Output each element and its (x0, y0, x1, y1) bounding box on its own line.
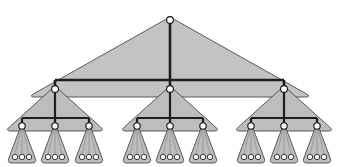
node-circle (93, 154, 98, 159)
leaf-node (141, 154, 146, 159)
node-circle (174, 154, 179, 159)
recursive-tree-figure: Recursive ternary tree diagram A four-le… (0, 0, 340, 167)
node-circle (248, 154, 253, 159)
leaf-node (160, 154, 165, 159)
node-circle (314, 123, 320, 129)
node-circle (321, 154, 326, 159)
node-circle (134, 123, 140, 129)
node-circle (167, 123, 173, 129)
internal-node (281, 123, 287, 129)
leaf-node (200, 154, 205, 159)
node-circle (160, 154, 165, 159)
node-circle (52, 154, 57, 159)
node-circle (12, 154, 17, 159)
node-circle (255, 154, 260, 159)
node-circle (86, 154, 91, 159)
node-circle (281, 86, 288, 93)
node-circle (314, 154, 319, 159)
leaf-node (248, 154, 253, 159)
node-circle (19, 154, 24, 159)
node-circle (274, 154, 279, 159)
root-node (167, 17, 174, 24)
node-circle (127, 154, 132, 159)
node-circle (281, 154, 286, 159)
node-circle (167, 17, 174, 24)
internal-node (167, 123, 173, 129)
leaf-node (255, 154, 260, 159)
node-circle (86, 123, 92, 129)
internal-node (167, 86, 174, 93)
node-circle (248, 123, 254, 129)
node-circle (281, 123, 287, 129)
leaf-node (281, 154, 286, 159)
node-circle (59, 154, 64, 159)
leaf-node (127, 154, 132, 159)
leaf-node (19, 154, 24, 159)
node-circle (200, 154, 205, 159)
node-circle (19, 123, 25, 129)
leaf-node (59, 154, 64, 159)
node-circle (167, 154, 172, 159)
internal-node (52, 123, 58, 129)
node-circle (241, 154, 246, 159)
leaf-node (52, 154, 57, 159)
node-circle (134, 154, 139, 159)
leaf-node (79, 154, 84, 159)
node-circle (26, 154, 31, 159)
node-circle (141, 154, 146, 159)
internal-node (248, 123, 254, 129)
tree-diagram-canvas: Recursive ternary tree diagram A four-le… (0, 0, 340, 167)
leaf-node (314, 154, 319, 159)
node-circle (79, 154, 84, 159)
leaf-node (307, 154, 312, 159)
node-circle (307, 154, 312, 159)
leaf-node (26, 154, 31, 159)
node-circle (52, 86, 59, 93)
node-circle (288, 154, 293, 159)
leaf-node (12, 154, 17, 159)
leaf-node (288, 154, 293, 159)
leaf-node (207, 154, 212, 159)
leaf-node (193, 154, 198, 159)
leaf-node (134, 154, 139, 159)
leaf-node (86, 154, 91, 159)
node-circle (200, 123, 206, 129)
internal-node (281, 86, 288, 93)
leaf-node (45, 154, 50, 159)
internal-node (86, 123, 92, 129)
internal-node (52, 86, 59, 93)
internal-node (134, 123, 140, 129)
leaf-node (174, 154, 179, 159)
internal-node (314, 123, 320, 129)
leaf-node (321, 154, 326, 159)
leaf-node (167, 154, 172, 159)
leaf-node (241, 154, 246, 159)
node-circle (52, 123, 58, 129)
internal-node (200, 123, 206, 129)
leaf-node (274, 154, 279, 159)
node-circle (167, 86, 174, 93)
node-circle (45, 154, 50, 159)
node-circle (207, 154, 212, 159)
leaf-node (93, 154, 98, 159)
internal-node (19, 123, 25, 129)
node-circle (193, 154, 198, 159)
